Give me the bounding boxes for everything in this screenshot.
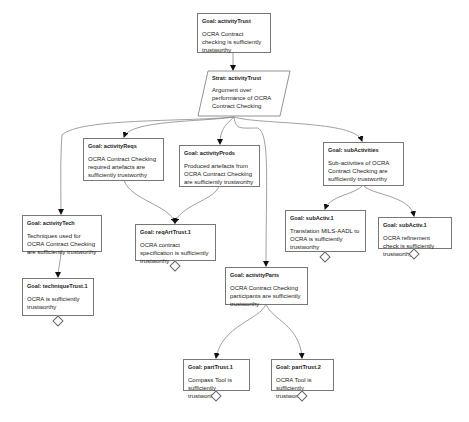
goal-text: OCRA Contract Checking required artefact… (88, 155, 159, 179)
goal-title: Goal: subActiv.1 (383, 221, 447, 229)
goal-title: Goal: activityParts (230, 271, 303, 279)
goal-text: Sub-activities of OCRA Contract Checking… (328, 159, 399, 183)
edge-strat-activityParts (234, 117, 267, 266)
goal-text: Produced artefacts from OCRA Contract Ch… (184, 162, 255, 186)
goal-subActivities[interactable]: Goal: subActivities Sub-activities of OC… (323, 142, 404, 186)
goal-activityTrust[interactable]: Goal: activityTrust OCRA Contract checki… (197, 13, 271, 53)
goal-subActiv1-refinement[interactable]: Goal: subActiv.1 OCRA refinement check i… (378, 217, 452, 249)
edge-activityProds-reqArt (175, 186, 219, 223)
goal-activityReqs[interactable]: Goal: activityReqs OCRA Contract Checkin… (83, 138, 164, 181)
edge-activityParts-partTrust1 (216, 304, 266, 358)
strategy-activityTrust[interactable]: Strat: activityTrust Argument over perfo… (212, 74, 284, 110)
goal-title: Goal: activityTech (27, 219, 97, 227)
goal-text: OCRA Contract Checking participants are … (230, 284, 303, 308)
edge-activityParts-partTrust2 (266, 304, 302, 358)
edge-strat-subActivities (234, 117, 362, 141)
goal-text: Techniques used for OCRA Contract Checki… (27, 232, 97, 256)
goal-title: Goal: reqArtTrust.1 (140, 228, 211, 236)
goal-title: Goal: subActiv.1 (290, 214, 361, 222)
goal-partTrust2[interactable]: Goal: partTrust.2 OCRA Tool is sufficien… (271, 359, 334, 391)
goal-title: Goal: subActivities (328, 146, 399, 154)
edge-subActivities-subActiv1b (363, 185, 414, 216)
goal-text: Translation MILS-AADL to OCRA is suffici… (290, 227, 361, 251)
goal-title: Goal: activityProds (184, 149, 255, 157)
goal-title: Goal: techniqueTrust.1 (27, 282, 89, 290)
goal-reqArtTrust1[interactable]: Goal: reqArtTrust.1 OCRA contract specif… (135, 224, 216, 261)
goal-subActiv1-translation[interactable]: Goal: subActiv.1 Translation MILS-AADL t… (285, 210, 366, 252)
goal-title: Goal: partTrust.1 (188, 363, 245, 371)
edge-strat-activityProds (220, 117, 234, 144)
edge-subActivities-subActiv1a (325, 185, 363, 209)
goal-title: Goal: activityReqs (88, 142, 159, 150)
goal-activityTech[interactable]: Goal: activityTech Techniques used for O… (22, 215, 102, 252)
goal-partTrust1[interactable]: Goal: partTrust.1 Compass Tool is suffic… (183, 359, 250, 391)
strategy-title: Strat: activityTrust (212, 74, 284, 82)
strategy-text: Argument over performance of OCRA Contra… (212, 86, 284, 110)
goal-activityProds[interactable]: Goal: activityProds Produced artefacts f… (179, 145, 260, 187)
goal-text: OCRA is sufficiently trustworthy (27, 295, 89, 311)
goal-title: Goal: partTrust.2 (276, 363, 329, 371)
goal-title: Goal: activityTrust (202, 17, 266, 25)
goal-techniqueTrust1[interactable]: Goal: techniqueTrust.1 OCRA is sufficien… (22, 278, 94, 316)
edge-activityReqs-reqArt (124, 180, 175, 223)
goal-activityParts[interactable]: Goal: activityParts OCRA Contract Checki… (225, 267, 308, 305)
goal-text: OCRA Contract checking is sufficiently t… (202, 30, 266, 54)
